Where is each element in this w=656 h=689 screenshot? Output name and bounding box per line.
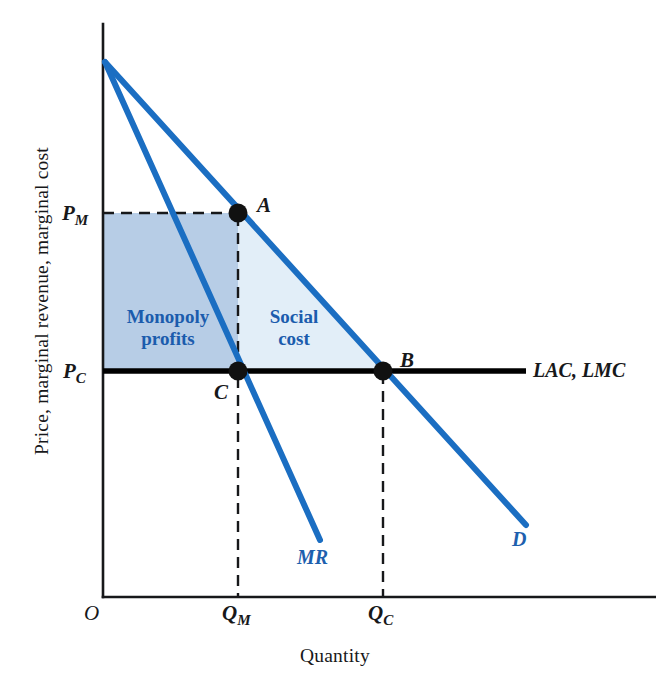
- region-social-cost-line2: cost: [248, 328, 340, 350]
- x-axis-label: Quantity: [300, 645, 370, 667]
- region-social-cost-label: Social cost: [248, 306, 340, 351]
- y-tick-pc-sub: C: [76, 370, 86, 386]
- y-tick-pm-sub: M: [75, 212, 88, 228]
- point-a-marker: [229, 204, 248, 223]
- marginal-revenue-curve-label: MR: [297, 546, 328, 569]
- point-c-marker: [229, 362, 248, 381]
- x-tick-qc-base: Q: [368, 601, 383, 625]
- x-tick-qm-base: Q: [222, 601, 237, 625]
- point-a-label: A: [257, 193, 271, 218]
- x-tick-qm-sub: M: [237, 612, 250, 628]
- y-tick-pm: PM: [62, 201, 88, 229]
- y-axis-label: Price, marginal revenue, marginal cost: [31, 51, 53, 551]
- y-tick-pc-base: P: [63, 359, 76, 383]
- region-monopoly-profits-line1: Monopoly: [108, 306, 228, 328]
- point-c-label: C: [214, 380, 228, 405]
- region-monopoly-profits-line2: profits: [108, 328, 228, 350]
- x-tick-qc-sub: C: [383, 612, 393, 628]
- point-b-marker: [374, 362, 393, 381]
- y-tick-pc: PC: [63, 359, 86, 387]
- region-social-cost-line1: Social: [248, 306, 340, 328]
- demand-curve-label: D: [512, 528, 526, 551]
- region-monopoly-profits-label: Monopoly profits: [108, 306, 228, 351]
- point-b-label: B: [400, 348, 414, 373]
- origin-label: O: [84, 601, 99, 626]
- lac-lmc-label: LAC, LMC: [533, 359, 625, 382]
- x-tick-qm: QM: [222, 601, 251, 629]
- y-tick-pm-base: P: [62, 201, 75, 225]
- monopoly-welfare-loss-figure: Price, marginal revenue, marginal cost Q…: [0, 0, 656, 689]
- x-tick-qc: QC: [368, 601, 393, 629]
